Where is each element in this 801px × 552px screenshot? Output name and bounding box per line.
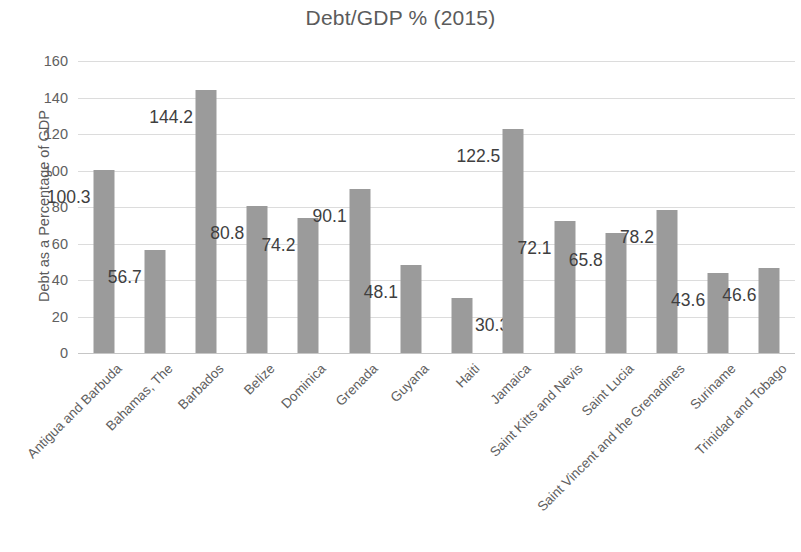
bar[interactable]: [93, 170, 114, 353]
y-axis-tick-label: 40: [8, 273, 68, 288]
bar[interactable]: [554, 221, 575, 353]
bar-value-label: 80.8: [210, 225, 244, 243]
x-axis-category-label: Trinidad and Tobago: [693, 361, 790, 458]
bar-value-label: 100.3: [47, 189, 91, 207]
y-axis-tick-label: 140: [8, 90, 68, 105]
bar-value-label: 56.7: [108, 269, 142, 287]
gridline: [78, 171, 795, 172]
gridline: [78, 98, 795, 99]
y-axis-tick-label: 20: [8, 309, 68, 324]
gridline: [78, 61, 795, 62]
x-axis-category-label: Belize: [241, 361, 278, 398]
y-axis-tick-label: 120: [8, 127, 68, 142]
x-axis-category-label: Haiti: [453, 361, 483, 391]
gridline: [78, 134, 795, 135]
bar[interactable]: [349, 189, 370, 353]
bar[interactable]: [247, 206, 268, 353]
bar-value-label: 46.6: [722, 287, 756, 305]
bar-value-label: 122.5: [457, 149, 501, 167]
gridline: [78, 317, 795, 318]
bar[interactable]: [452, 298, 473, 353]
plot-area: 100.356.7144.280.874.290.148.130.3122.57…: [78, 61, 795, 353]
bar-value-label: 78.2: [620, 230, 654, 248]
chart-title: Debt/GDP % (2015): [0, 6, 801, 30]
bar[interactable]: [400, 265, 421, 353]
bar-value-label: 43.6: [671, 293, 705, 311]
x-axis-category-label: Guyana: [387, 361, 431, 405]
y-axis-tick-label: 60: [8, 236, 68, 251]
bar[interactable]: [196, 90, 217, 353]
x-axis-category-label: Antigua and Barbuda: [24, 361, 124, 461]
x-axis-category-label: Barbados: [175, 361, 226, 412]
bar[interactable]: [759, 268, 780, 353]
x-axis-category-labels: Antigua and BarbudaBahamas, TheBarbadosB…: [78, 353, 795, 552]
bar-value-label: 65.8: [569, 252, 603, 270]
y-axis-tick-label: 160: [8, 54, 68, 69]
bar-value-label: 74.2: [261, 237, 295, 255]
bar-value-label: 72.1: [517, 241, 551, 259]
bar[interactable]: [144, 250, 165, 353]
y-axis-tick-label: 0: [8, 346, 68, 361]
bar-value-label: 48.1: [364, 284, 398, 302]
bar[interactable]: [656, 210, 677, 353]
x-axis-category-label: Saint Kitts and Nevis: [486, 361, 585, 460]
gridline: [78, 207, 795, 208]
y-axis-tick-label: 100: [8, 163, 68, 178]
bar[interactable]: [605, 233, 626, 353]
debt-gdp-bar-chart: Debt/GDP % (2015) Debt as a Percentage o…: [0, 0, 801, 552]
bar-value-label: 90.1: [313, 208, 347, 226]
bar[interactable]: [298, 218, 319, 353]
gridline: [78, 244, 795, 245]
x-axis-category-label: Jamaica: [488, 361, 534, 407]
gridline: [78, 280, 795, 281]
x-axis-category-label: Suriname: [687, 361, 738, 412]
bar-value-label: 144.2: [149, 109, 193, 127]
x-axis-category-label: Dominica: [279, 361, 329, 411]
x-axis-category-label: Grenada: [333, 361, 381, 409]
